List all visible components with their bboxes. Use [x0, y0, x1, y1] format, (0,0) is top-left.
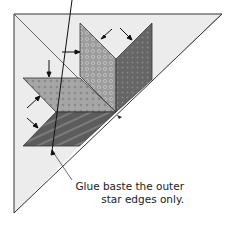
- diagram-canvas: Glue baste the outer star edges only.: [0, 0, 234, 229]
- caption-line-2: star edges only.: [64, 193, 184, 206]
- caption-line-1: Glue baste the outer: [64, 180, 184, 193]
- caption: Glue baste the outer star edges only.: [64, 180, 184, 206]
